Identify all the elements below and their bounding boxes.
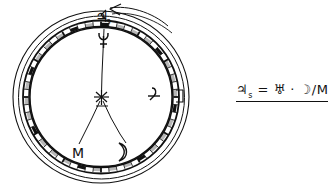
center-star-icon: [94, 90, 109, 105]
formula-annotation: ♃s = ♅ · ☽/M: [236, 82, 320, 102]
dial-minor-tick: [93, 22, 94, 27]
formula-term1: ♅: [274, 82, 286, 97]
dial-minor-tick: [25, 81, 30, 82]
dial-band-segment: [93, 168, 101, 172]
astronomical-dial-figure: ♃ s M: [0, 0, 210, 193]
dial-minor-tick: [93, 167, 94, 172]
formula-equals: =: [257, 82, 268, 97]
top-jupiter-subscript: s: [106, 16, 111, 26]
formula-term2: ☽: [300, 82, 312, 97]
jupiter-symbol: [148, 88, 160, 100]
formula-lhs: ♃: [236, 82, 248, 97]
mars-label: M: [72, 145, 84, 161]
ray-to-mars: [79, 101, 100, 144]
dial-minor-tick: [172, 112, 177, 113]
formula-lhs-subscript: s: [248, 91, 253, 100]
dial-minor-tick: [109, 167, 110, 172]
ray-to-moon: [103, 101, 126, 143]
formula-dot: ·: [290, 82, 295, 97]
formula-term3: M: [317, 82, 328, 97]
dial-band-segment: [25, 97, 29, 105]
moon-symbol: [119, 143, 127, 161]
